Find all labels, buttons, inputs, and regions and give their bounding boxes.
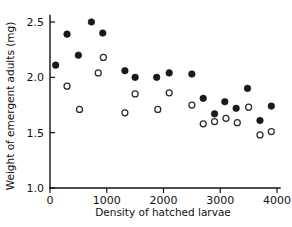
y-tick-label: 2.0 xyxy=(27,71,45,84)
data-point-filled xyxy=(52,62,59,69)
data-point-filled xyxy=(211,111,218,118)
y-tick-label: 1.5 xyxy=(27,127,45,140)
data-point-filled xyxy=(244,85,251,92)
scatter-plot-figure: 1.01.52.02.5 01000200030004000 Density o… xyxy=(0,0,292,227)
y-axis-ticks xyxy=(50,22,55,188)
data-point-filled xyxy=(257,117,264,124)
data-point-open xyxy=(246,104,252,110)
x-tick-label: 4000 xyxy=(263,194,291,207)
data-points-layer xyxy=(52,19,274,138)
data-point-filled xyxy=(64,31,71,38)
data-point-filled xyxy=(221,98,228,105)
data-point-open xyxy=(166,90,172,96)
x-axis-group: 01000200030004000 xyxy=(47,188,292,207)
data-point-open xyxy=(257,132,263,138)
data-point-filled xyxy=(166,70,173,77)
data-point-filled xyxy=(233,105,240,112)
series-filled-circles xyxy=(52,19,274,124)
y-axis-group: 1.01.52.02.5 xyxy=(27,15,56,195)
data-point-open xyxy=(212,119,218,125)
y-axis-title: Weight of emergent adults (mg) xyxy=(4,22,16,191)
data-point-open xyxy=(234,120,240,126)
y-tick-label: 2.5 xyxy=(27,16,45,29)
x-axis-title: Density of hatched larvae xyxy=(95,206,231,218)
data-point-open xyxy=(132,91,138,97)
data-point-filled xyxy=(200,95,207,102)
x-tick-label: 0 xyxy=(47,194,54,207)
data-point-open xyxy=(122,110,128,116)
data-point-open xyxy=(100,54,106,60)
data-point-filled xyxy=(88,19,95,26)
data-point-filled xyxy=(268,103,275,110)
data-point-open xyxy=(155,106,161,112)
x-axis-ticks xyxy=(50,188,277,193)
plot-svg: 1.01.52.02.5 01000200030004000 Density o… xyxy=(0,0,292,227)
data-point-filled xyxy=(99,30,106,37)
y-tick-label: 1.0 xyxy=(27,182,45,195)
data-point-open xyxy=(189,102,195,108)
data-point-open xyxy=(77,106,83,112)
data-point-open xyxy=(223,115,229,121)
data-point-filled xyxy=(189,71,196,78)
data-point-open xyxy=(95,70,101,76)
data-point-open xyxy=(64,83,70,89)
data-point-open xyxy=(200,121,206,127)
series-open-circles xyxy=(64,54,274,137)
data-point-filled xyxy=(153,74,160,81)
y-axis-tick-labels: 1.01.52.02.5 xyxy=(27,16,45,195)
data-point-filled xyxy=(122,67,129,74)
data-point-filled xyxy=(75,52,82,59)
data-point-open xyxy=(268,129,274,135)
data-point-filled xyxy=(132,74,139,81)
